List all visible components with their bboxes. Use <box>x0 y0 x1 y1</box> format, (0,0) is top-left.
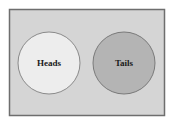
heads-label: Heads <box>37 58 62 68</box>
venn-diagram: Heads Tails <box>0 0 171 123</box>
tails-label: Tails <box>115 58 134 68</box>
